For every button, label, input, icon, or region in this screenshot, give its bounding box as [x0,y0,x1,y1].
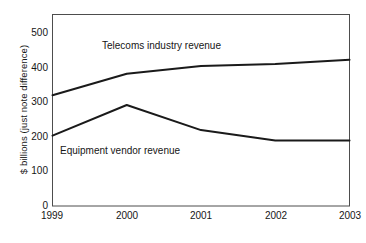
y-tick-label-400: 400 [2,63,48,73]
series-label-equipment: Equipment vendor revenue [60,145,180,156]
series-line-telecoms [53,60,350,96]
x-tick-label-1999: 1999 [24,211,80,221]
series-line-equipment [53,105,350,141]
y-tick-label-500: 500 [2,28,48,38]
y-axis-tick-labels: 500 400 300 200 100 0 [0,0,48,243]
y-tick-label-100: 100 [2,166,48,176]
y-tick-label-200: 200 [2,132,48,142]
x-tick-label-2003: 2003 [322,211,366,221]
x-tick-label-2001: 2001 [173,211,229,221]
series-label-telecoms: Telecoms industry revenue [102,40,221,51]
x-tick-label-2002: 2002 [248,211,304,221]
plot-area [0,0,366,243]
line-chart: $ billions (just note difference) 500 40… [0,0,366,243]
x-tick-label-2000: 2000 [99,211,155,221]
y-tick-label-300: 300 [2,97,48,107]
